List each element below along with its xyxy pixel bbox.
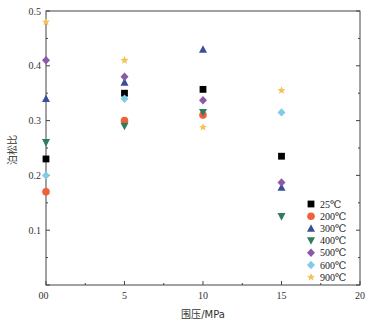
data-point: [42, 188, 50, 196]
legend-marker: [307, 212, 315, 220]
data-point: [278, 153, 285, 160]
legend-label: 900℃: [320, 272, 346, 283]
data-point: [200, 86, 207, 93]
data-point: [278, 178, 286, 186]
legend-label: 300℃: [320, 223, 346, 234]
x-tick-label: 15: [277, 290, 287, 301]
legend: 25℃200℃300℃400℃500℃600℃900℃: [307, 199, 346, 283]
data-point: [121, 73, 129, 81]
y-tick-label: 0.5: [29, 6, 42, 17]
legend-marker: [307, 249, 315, 257]
legend-marker: [308, 201, 315, 208]
legend-label: 25℃: [320, 199, 341, 210]
data-point: [199, 96, 207, 104]
data-point: [199, 45, 207, 53]
data-point: [199, 123, 207, 131]
legend-label: 500℃: [320, 247, 346, 258]
data-point: [42, 171, 50, 179]
data-point: [42, 56, 50, 64]
legend-marker: [307, 237, 315, 245]
y-tick-label: 0: [39, 290, 44, 301]
data-point: [278, 213, 286, 221]
ticks: 0510152000.10.20.30.40.5: [29, 6, 366, 302]
x-tick-label: 20: [355, 290, 365, 301]
data-point: [43, 156, 50, 163]
data-point: [278, 108, 286, 116]
data-point: [42, 139, 50, 147]
data-point: [121, 56, 129, 64]
legend-marker: [307, 273, 315, 281]
x-tick-label: 5: [122, 290, 127, 301]
data-points: [42, 18, 286, 221]
legend-label: 600℃: [320, 260, 346, 271]
y-tick-label: 0.3: [29, 115, 42, 126]
y-tick-label: 0.1: [29, 225, 42, 236]
y-tick-label: 0.2: [29, 170, 42, 181]
y-tick-label: 0.4: [29, 60, 42, 71]
x-tick-label: 0: [44, 290, 49, 301]
y-axis-label: 泊松比: [6, 135, 18, 165]
scatter-chart: 0510152000.10.20.30.40.5 25℃200℃300℃400℃…: [0, 0, 372, 326]
data-point: [42, 94, 50, 102]
x-tick-label: 10: [198, 290, 208, 301]
legend-marker: [307, 224, 315, 232]
legend-marker: [307, 261, 315, 269]
x-axis-label: 围压/MPa: [181, 309, 225, 320]
data-point: [121, 123, 129, 131]
legend-label: 400℃: [320, 235, 346, 246]
legend-label: 200℃: [320, 211, 346, 222]
data-point: [278, 86, 286, 94]
